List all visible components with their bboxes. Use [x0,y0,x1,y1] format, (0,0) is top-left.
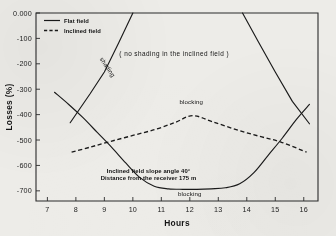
x-tick-label: 8 [74,205,78,214]
legend-label-flat-field: Flat field [64,18,89,24]
x-tick-label: 9 [102,205,106,214]
x-tick-label: 14 [243,205,251,214]
y-tick-label: 0.000 [13,9,32,18]
y-tick-label: -700 [17,186,32,195]
x-tick-label: 11 [157,205,165,214]
legend-label-inclined-field: Inclined field [64,28,101,34]
y-tick-label: -400 [17,110,32,119]
annotation-blocking-middle: blocking [179,98,203,105]
y-tick-label: -600 [17,161,32,170]
x-tick-label: 12 [186,205,194,214]
y-axis-title: Losses (%) [4,83,14,130]
losses-vs-hours-chart: -700-600-500-400-300-200-1000.000 789101… [0,0,336,236]
y-tick-label: -300 [17,85,32,94]
x-tick-label: 15 [271,205,279,214]
annotation-blocking-top: blocking [178,190,202,197]
x-tick-label: 10 [129,205,137,214]
annotation-slope-note: Inclined field slope angle 40° [107,168,191,174]
annotation-distance-note: Distance from the receiver 175 m [101,175,197,181]
x-tick-label: 13 [214,205,222,214]
x-tick-label: 7 [45,205,49,214]
x-axis-title: Hours [164,218,190,228]
annotation-no-shading-note: ( no shading in the inclined field ) [119,50,229,58]
y-tick-label: -100 [17,34,32,43]
y-tick-label: -200 [17,59,32,68]
x-tick-label: 16 [300,205,308,214]
figure-container: -700-600-500-400-300-200-1000.000 789101… [0,0,336,236]
y-tick-label: -500 [17,136,32,145]
